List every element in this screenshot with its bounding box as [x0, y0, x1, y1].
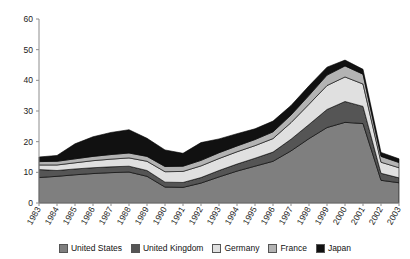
- y-tick-label: 60: [24, 14, 34, 24]
- y-tick-label: 30: [24, 106, 34, 116]
- y-tick-label: 20: [24, 137, 34, 147]
- x-tick-label: 2002: [367, 205, 385, 227]
- chart-legend: United StatesUnited KingdomGermanyFrance…: [0, 243, 410, 253]
- legend-item-france[interactable]: France: [268, 243, 306, 253]
- x-tick-label: 1989: [133, 205, 151, 227]
- x-tick-label: 1992: [187, 205, 205, 227]
- legend-item-label: United Kingdom: [143, 243, 203, 253]
- legend-item-label: Japan: [328, 243, 351, 253]
- x-tick-label: 2003: [385, 205, 403, 227]
- x-tick-label: 1995: [241, 205, 259, 227]
- x-tick-label: 1985: [61, 205, 79, 227]
- legend-item-united-kingdom[interactable]: United Kingdom: [131, 243, 203, 253]
- x-axis-ticks: 1983198419851986198719881989199019911992…: [25, 203, 403, 226]
- x-tick-label: 1999: [313, 205, 331, 227]
- x-tick-label: 1983: [25, 205, 43, 227]
- legend-item-label: France: [280, 243, 306, 253]
- legend-item-japan[interactable]: Japan: [316, 243, 351, 253]
- y-axis-ticks: 0102030405060: [24, 14, 39, 208]
- legend-item-label: United States: [71, 243, 122, 253]
- x-tick-label: 2000: [331, 205, 349, 227]
- series-areas: [39, 60, 399, 203]
- legend-swatch-icon: [268, 244, 277, 253]
- legend-swatch-icon: [316, 244, 325, 253]
- legend-swatch-icon: [59, 244, 68, 253]
- x-tick-label: 1984: [43, 205, 61, 227]
- y-tick-label: 10: [24, 167, 34, 177]
- x-tick-label: 1993: [205, 205, 223, 227]
- x-tick-label: 1990: [151, 205, 169, 227]
- y-tick-label: 40: [24, 75, 34, 85]
- legend-item-united-states[interactable]: United States: [59, 243, 122, 253]
- legend-item-label: Germany: [224, 243, 259, 253]
- x-tick-label: 1994: [223, 205, 241, 227]
- x-tick-label: 2001: [349, 205, 367, 227]
- legend-item-germany[interactable]: Germany: [212, 243, 259, 253]
- stacked-area-chart: 0102030405060 19831984198519861987198819…: [0, 0, 410, 259]
- y-tick-label: 50: [24, 45, 34, 55]
- legend-swatch-icon: [131, 244, 140, 253]
- chart-canvas: 0102030405060 19831984198519861987198819…: [0, 0, 410, 259]
- x-tick-label: 1996: [259, 205, 277, 227]
- x-tick-label: 1998: [295, 205, 313, 227]
- x-tick-label: 1987: [97, 205, 115, 227]
- x-tick-label: 1986: [79, 205, 97, 227]
- x-tick-label: 1997: [277, 205, 295, 227]
- x-tick-label: 1991: [169, 205, 187, 227]
- x-tick-label: 1988: [115, 205, 133, 227]
- legend-swatch-icon: [212, 244, 221, 253]
